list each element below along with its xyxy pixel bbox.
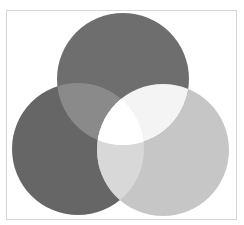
venn-diagram <box>0 0 244 225</box>
